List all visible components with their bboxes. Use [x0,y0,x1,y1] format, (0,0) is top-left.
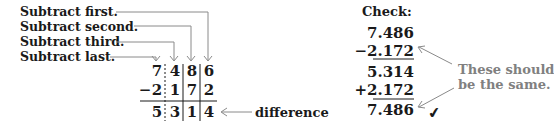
digit-top-ones: 7 [150,63,164,80]
digit-bottom-thousandths: 2 [202,82,216,99]
digit-bottom-tenths: 1 [168,82,182,99]
difference-label: difference [255,106,329,120]
digit-result-hundredths: 1 [185,104,199,121]
digit-top-tenths: 4 [168,63,182,80]
check-line-sum: 7.486 [344,102,414,119]
check-line-subtrahend: −2.172 [344,43,414,60]
note-line-2: be the same. [458,77,550,93]
digit-result-ones: 5 [150,104,164,121]
digit-top-hundredths: 8 [185,63,199,80]
digit-top-thousandths: 6 [202,63,216,80]
check-line-difference: 5.314 [344,64,414,81]
check-line-addend: +2.172 [344,82,414,99]
digit-bottom-hundredths: 7 [185,82,199,99]
note-line-1: These should [458,62,554,78]
digit-result-tenths: 3 [168,104,182,121]
digit-result-thousandths: 4 [202,104,216,121]
check-title: Check: [362,5,412,19]
digit-bottom-ones: 2 [150,82,164,99]
check-line-original: 7.486 [344,25,414,42]
